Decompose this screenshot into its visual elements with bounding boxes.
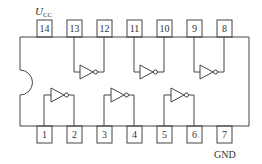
pin-label-3: 3 [102, 129, 107, 140]
pin-label-2: 2 [72, 129, 77, 140]
pin-label-12: 12 [100, 23, 110, 34]
pin-label-8: 8 [222, 23, 227, 34]
pin-label-1: 1 [42, 129, 47, 140]
pin-label-14: 14 [40, 23, 50, 34]
pin-label-9: 9 [192, 23, 197, 34]
inverter-9-8 [194, 37, 224, 79]
inverter-11-10 [134, 37, 164, 79]
vcc-label: UCC [35, 5, 53, 19]
gnd-label: GND [214, 149, 236, 160]
pin-label-5: 5 [162, 129, 167, 140]
pin-label-6: 6 [192, 129, 197, 140]
pin-label-13: 13 [70, 23, 80, 34]
pin-label-4: 4 [132, 129, 137, 140]
inverter-5-6 [164, 88, 194, 126]
inverter-1-2 [44, 88, 74, 126]
inverter-13-12 [74, 37, 104, 79]
pin-label-11: 11 [130, 23, 140, 34]
ic-pinout-diagram: UCC GND 14 13 12 11 10 9 8 1 2 3 4 5 6 7 [0, 0, 262, 164]
inverter-3-4 [104, 88, 134, 126]
pin-label-7: 7 [222, 129, 227, 140]
pin-label-10: 10 [160, 23, 170, 34]
